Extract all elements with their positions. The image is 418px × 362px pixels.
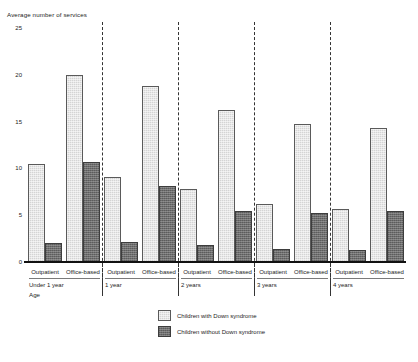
setting-column	[254, 28, 292, 262]
bar-group	[178, 28, 254, 262]
legend-item: Children without Down syndrome	[158, 326, 265, 337]
y-axis-title: Average number of services	[7, 11, 87, 18]
setting-label: Outpatient	[178, 264, 216, 278]
bar-with-down-syndrome	[218, 110, 235, 262]
legend-label: Children with Down syndrome	[177, 313, 257, 319]
bar-without-down-syndrome	[83, 162, 100, 262]
setting-label-row: OutpatientOffice-based	[254, 264, 330, 278]
bar-groups	[26, 28, 406, 262]
setting-label: Office-based	[292, 264, 330, 278]
age-group-label: 1 year	[102, 279, 178, 289]
legend-item: Children with Down syndrome	[158, 310, 265, 321]
setting-column	[330, 28, 368, 262]
y-axis-tick-label: 15	[15, 119, 22, 125]
legend-swatch	[158, 326, 171, 337]
x-axis-title: Age	[29, 291, 40, 298]
setting-column	[64, 28, 102, 262]
age-group-label: 3 years	[254, 279, 330, 289]
setting-label: Office-based	[368, 264, 406, 278]
setting-label-row: OutpatientOffice-based	[178, 264, 254, 278]
bar-with-down-syndrome	[256, 204, 273, 262]
bar-without-down-syndrome	[197, 245, 214, 262]
setting-label: Office-based	[140, 264, 178, 278]
setting-label: Outpatient	[254, 264, 292, 278]
y-axis-tick-label: 0	[19, 259, 22, 265]
setting-label-row: OutpatientOffice-based	[26, 264, 102, 278]
age-group-label: 4 years	[330, 279, 406, 289]
y-axis-tick-label: 5	[19, 212, 22, 218]
x-axis-baseline	[24, 261, 406, 263]
bar-with-down-syndrome	[294, 124, 311, 262]
group-separator	[330, 264, 331, 294]
bar-with-down-syndrome	[180, 189, 197, 262]
setting-column	[102, 28, 140, 262]
bar-with-down-syndrome	[104, 177, 121, 262]
bar-without-down-syndrome	[235, 211, 252, 262]
bar-with-down-syndrome	[66, 75, 83, 262]
bar-chart: Average number of services 0510152025 Ou…	[0, 0, 418, 362]
y-axis-tick-label: 25	[15, 25, 22, 31]
group-separator	[178, 264, 179, 294]
y-axis-tick-label: 20	[15, 72, 22, 78]
setting-label: Office-based	[216, 264, 254, 278]
bar-without-down-syndrome	[121, 242, 138, 262]
setting-column	[292, 28, 330, 262]
bar-group	[26, 28, 102, 262]
group-separator	[102, 264, 103, 294]
y-axis-tick-label: 10	[15, 165, 22, 171]
setting-column	[368, 28, 406, 262]
legend-label: Children without Down syndrome	[177, 329, 265, 335]
bar-group	[102, 28, 178, 262]
setting-label-row: OutpatientOffice-based	[102, 264, 178, 278]
age-group-label: Under 1 year	[26, 279, 102, 289]
setting-column	[216, 28, 254, 262]
plot-area: 0510152025	[26, 28, 406, 262]
group-separator	[254, 264, 255, 294]
legend-swatch	[158, 310, 171, 321]
bar-group	[330, 28, 406, 262]
bar-without-down-syndrome	[387, 211, 404, 262]
age-group-label: 2 years	[178, 279, 254, 289]
bar-without-down-syndrome	[311, 213, 328, 262]
x-axis-group: OutpatientOffice-based3 years	[254, 264, 330, 304]
bar-with-down-syndrome	[332, 209, 349, 262]
setting-label: Outpatient	[102, 264, 140, 278]
setting-label: Outpatient	[26, 264, 64, 278]
chart-legend: Children with Down syndromeChildren with…	[158, 310, 265, 337]
bar-with-down-syndrome	[370, 128, 387, 262]
setting-label-row: OutpatientOffice-based	[330, 264, 406, 278]
setting-label: Office-based	[64, 264, 102, 278]
setting-column	[140, 28, 178, 262]
x-axis-labels: OutpatientOffice-basedUnder 1 yearOutpat…	[26, 264, 406, 304]
setting-column	[26, 28, 64, 262]
x-axis-group: OutpatientOffice-basedUnder 1 year	[26, 264, 102, 304]
setting-label: Outpatient	[330, 264, 368, 278]
bar-with-down-syndrome	[142, 86, 159, 262]
x-axis-group: OutpatientOffice-based2 years	[178, 264, 254, 304]
bar-group	[254, 28, 330, 262]
x-axis-group: OutpatientOffice-based4 years	[330, 264, 406, 304]
bar-without-down-syndrome	[45, 243, 62, 262]
bar-with-down-syndrome	[28, 164, 45, 262]
bar-without-down-syndrome	[159, 186, 176, 262]
x-axis-group: OutpatientOffice-based1 year	[102, 264, 178, 304]
setting-column	[178, 28, 216, 262]
